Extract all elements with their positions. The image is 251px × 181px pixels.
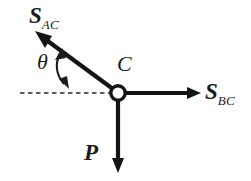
load-label-p: P bbox=[84, 141, 98, 164]
force-label-sbc-subscript: BC bbox=[218, 93, 235, 108]
force-label-sac-symbol: S bbox=[29, 3, 42, 28]
angle-label-theta: θ bbox=[37, 51, 48, 73]
load-label-p-symbol: P bbox=[84, 140, 98, 165]
force-vector-sac-shaft bbox=[45, 39, 113, 89]
force-label-sac-subscript: AC bbox=[42, 17, 59, 32]
joint-label-c: C bbox=[117, 53, 132, 75]
force-label-sac: SAC bbox=[29, 4, 59, 31]
force-label-sbc: SBC bbox=[205, 80, 235, 107]
force-vector-sac-arrowhead bbox=[35, 31, 52, 48]
load-vector-p-arrowhead bbox=[112, 158, 124, 173]
joint-node-circle bbox=[111, 86, 125, 100]
force-label-sbc-symbol: S bbox=[205, 79, 218, 104]
force-vector-sbc-arrowhead bbox=[187, 87, 201, 99]
force-diagram-figure: SAC SBC P C θ bbox=[0, 0, 251, 181]
